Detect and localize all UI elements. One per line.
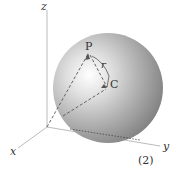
- figure-number: (2): [138, 155, 154, 166]
- z-axis-label: z: [41, 1, 47, 12]
- point-p-label: P: [85, 41, 92, 52]
- x-axis: [18, 127, 47, 148]
- radius-label: r: [101, 60, 106, 70]
- x-axis-label: x: [10, 146, 16, 157]
- sphere: [53, 33, 163, 143]
- y-axis-label: y: [163, 141, 169, 152]
- point-c-label: C: [110, 79, 118, 90]
- sphere-diagram: [0, 0, 187, 177]
